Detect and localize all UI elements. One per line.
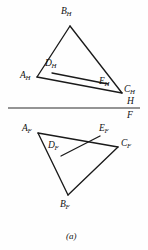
label-point-d-top: DH (45, 59, 57, 69)
label-point-e-top: EH (99, 77, 110, 87)
segment-BC (70, 26, 122, 93)
label-point-d-front: DF (48, 141, 59, 151)
label-point-b-top: BH (61, 7, 72, 17)
label-point-a-front: AF (22, 124, 32, 134)
segment-AB (37, 26, 70, 77)
figure-container: AH BH CH DH EH H F AF BF CF DF EF (a) (0, 0, 148, 250)
fold-line-label-f: F (127, 111, 133, 121)
label-point-c-front: CF (121, 139, 131, 149)
figure-caption: (a) (66, 232, 77, 241)
fold-line-label-h: H (127, 97, 134, 107)
label-point-c-top: CH (124, 85, 135, 95)
segment-DE (61, 136, 100, 156)
segment-BC (68, 147, 118, 195)
label-point-a-top: AH (20, 71, 31, 81)
label-point-b-front: BF (60, 200, 70, 210)
label-point-e-front: EF (99, 124, 109, 134)
